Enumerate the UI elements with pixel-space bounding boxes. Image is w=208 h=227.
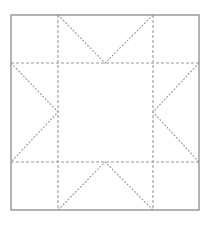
star-point-top (58, 15, 153, 63)
star-point-left (11, 63, 58, 162)
star-point-right (153, 63, 199, 162)
quilt-block-diagram (0, 0, 208, 227)
star-point-bottom (58, 162, 153, 210)
outer-border (11, 15, 199, 210)
seam-grid (11, 15, 199, 210)
star-points (11, 15, 199, 210)
